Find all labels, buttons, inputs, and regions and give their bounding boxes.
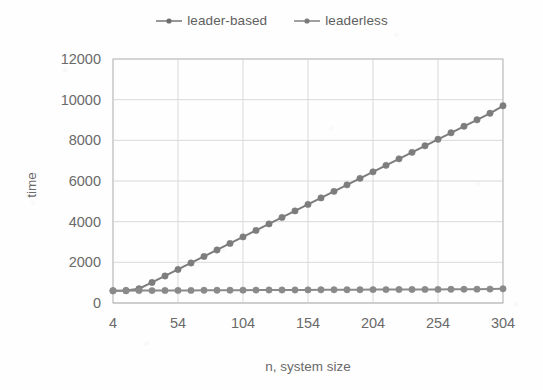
data-point-leaderless xyxy=(214,287,220,293)
data-point-leaderless xyxy=(344,287,350,293)
data-point-leader-based xyxy=(188,260,194,266)
data-point-leader-based xyxy=(383,162,389,168)
data-point-leader-based xyxy=(279,214,285,220)
y-tick-label: 4000 xyxy=(69,214,101,230)
y-axis-tick-labels: 020004000600080001000012000 xyxy=(61,51,101,311)
y-tick-label: 2000 xyxy=(69,254,101,270)
data-point-leaderless xyxy=(279,287,285,293)
data-point-leaderless xyxy=(461,286,467,292)
data-point-leader-based xyxy=(500,103,506,109)
data-point-leaderless xyxy=(305,287,311,293)
data-point-leader-based xyxy=(214,247,220,253)
y-tick-label: 0 xyxy=(93,295,101,311)
plot-area: 020004000600080001000012000 454104154204… xyxy=(0,0,543,390)
x-tick-label: 154 xyxy=(296,315,320,331)
data-point-leaderless xyxy=(487,286,493,292)
y-axis-title: time xyxy=(24,172,39,198)
data-point-leader-based xyxy=(344,182,350,188)
data-point-leader-based xyxy=(357,175,363,181)
data-point-leader-based xyxy=(318,195,324,201)
data-point-leaderless xyxy=(370,286,376,292)
y-tick-label: 12000 xyxy=(61,51,101,67)
data-point-leaderless xyxy=(292,287,298,293)
data-point-leader-based xyxy=(474,117,480,123)
data-point-leader-based xyxy=(305,201,311,207)
data-point-leaderless xyxy=(266,287,272,293)
data-point-leaderless xyxy=(240,287,246,293)
data-point-leaderless xyxy=(188,287,194,293)
data-point-leader-based xyxy=(266,221,272,227)
data-point-leaderless xyxy=(201,287,207,293)
x-tick-label: 4 xyxy=(109,315,117,331)
data-point-leader-based xyxy=(409,149,415,155)
data-point-leader-based xyxy=(422,143,428,149)
x-tick-label: 54 xyxy=(170,315,186,331)
data-point-leaderless xyxy=(149,287,155,293)
data-point-leaderless xyxy=(175,287,181,293)
data-point-leaderless xyxy=(136,287,142,293)
data-point-leaderless xyxy=(227,287,233,293)
data-point-leaderless xyxy=(422,286,428,292)
data-point-leader-based xyxy=(240,234,246,240)
data-point-leader-based xyxy=(175,266,181,272)
data-point-leader-based xyxy=(370,169,376,175)
x-tick-label: 204 xyxy=(361,315,385,331)
data-point-leader-based xyxy=(331,188,337,194)
grid-lines xyxy=(113,59,503,303)
data-point-leaderless xyxy=(110,288,116,294)
data-point-leader-based xyxy=(201,253,207,259)
data-point-leader-based xyxy=(435,136,441,142)
data-point-leader-based xyxy=(396,156,402,162)
chart-canvas: 020004000600080001000012000 454104154204… xyxy=(0,0,543,390)
x-tick-label: 254 xyxy=(426,315,450,331)
y-tick-label: 10000 xyxy=(61,92,101,108)
data-point-leader-based xyxy=(448,130,454,136)
y-tick-label: 8000 xyxy=(69,132,101,148)
data-point-leaderless xyxy=(318,287,324,293)
data-point-leaderless xyxy=(448,286,454,292)
y-tick-label: 6000 xyxy=(69,173,101,189)
x-axis-title: n, system size xyxy=(265,359,351,374)
data-point-leader-based xyxy=(227,240,233,246)
data-point-leader-based xyxy=(253,227,259,233)
data-point-leaderless xyxy=(409,286,415,292)
data-point-leaderless xyxy=(357,286,363,292)
data-point-leaderless xyxy=(383,286,389,292)
data-point-leaderless xyxy=(162,287,168,293)
data-point-leader-based xyxy=(149,279,155,285)
data-point-leaderless xyxy=(474,286,480,292)
data-point-leaderless xyxy=(253,287,259,293)
data-point-leader-based xyxy=(461,123,467,129)
x-axis-tick-labels: 454104154204254304 xyxy=(109,315,515,331)
data-point-leader-based xyxy=(487,110,493,116)
data-point-leader-based xyxy=(162,273,168,279)
data-point-leaderless xyxy=(500,286,506,292)
data-point-leaderless xyxy=(123,288,129,294)
data-point-leaderless xyxy=(396,286,402,292)
x-tick-label: 304 xyxy=(491,315,515,331)
data-point-leaderless xyxy=(435,286,441,292)
data-point-leaderless xyxy=(331,287,337,293)
chart-screenshot: leader-based leaderless 0200040006000800… xyxy=(0,0,543,390)
x-tick-label: 104 xyxy=(231,315,255,331)
data-point-leader-based xyxy=(292,208,298,214)
